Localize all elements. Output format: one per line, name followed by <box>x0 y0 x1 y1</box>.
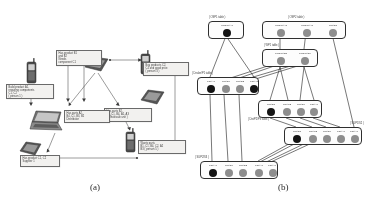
panel-a: Build product A1, requiring components C… <box>0 0 192 212</box>
callout-bottom-text: Wants parts B1, C1, B4, C2, A2 B3 ( pers… <box>141 142 184 151</box>
node-b7-n5[interactable] <box>269 169 277 177</box>
cluster-right-low: Part B1 Part C2 Part B4 Part A7 Part A1 <box>284 127 362 145</box>
device-pda-2 <box>139 88 166 107</box>
cluster-right-low-title: ( SUP1/S2 ) <box>350 122 364 125</box>
node-b7-n3[interactable] <box>239 169 247 177</box>
callout-bottom: Wants parts B1, C1, B4, C2, A2 B3 ( pers… <box>138 140 186 154</box>
panel-b: ( OSP1 table ) Product A1 ( OSP2 table )… <box>192 0 384 212</box>
node-b6-n4[interactable] <box>337 135 345 143</box>
node-b7-n4[interactable] <box>255 169 263 177</box>
caption-b: (b) <box>278 182 289 192</box>
cluster-center-low-title: ( DistP2/P3 table ) <box>248 118 269 121</box>
cluster-top-right-title: ( OSP2 table ) <box>288 16 304 19</box>
callout-right-top: Buy products C2, C4 and good price ( per… <box>143 62 189 76</box>
cluster-top-right: Product A2 Product A3 Part B1 <box>262 21 346 39</box>
device-phone-1 <box>26 58 37 84</box>
node-b1-n1[interactable] <box>223 29 231 37</box>
node-b6-n2[interactable] <box>309 135 317 143</box>
callout-laptop-text: Has parts A2, B4, C1, B3, B2 Distributor <box>67 112 108 121</box>
node-b6-n5[interactable] <box>351 135 359 143</box>
node-b7-n1[interactable] <box>209 169 218 178</box>
cluster-mid-right-title: ( WP1 table ) <box>264 44 279 47</box>
callout-top-text: Has product B1 and B2 Needs component C1 <box>59 52 100 64</box>
node-b3-n1[interactable] <box>277 57 285 65</box>
node-label-b5-n4: Part A7 <box>303 103 325 106</box>
node-b5-n4[interactable] <box>310 108 318 116</box>
node-b7-n2[interactable] <box>225 169 233 177</box>
callout-left: Build product A1, requiring components C… <box>6 84 54 99</box>
device-laptop-1 <box>28 108 68 134</box>
node-b5-n1[interactable] <box>267 108 276 117</box>
callout-laptop: Has parts A2, B4, C1, B3, B2 Distributor <box>64 110 110 123</box>
node-label-b4-n4: Part A2 <box>243 80 265 83</box>
caption-a: (a) <box>90 182 100 192</box>
node-b4-n1[interactable] <box>207 85 216 94</box>
node-label-b2-n2: Product A3 <box>293 24 321 27</box>
cluster-top-left-title: ( OSP1 table ) <box>209 16 225 19</box>
node-b2-n3[interactable] <box>329 29 337 37</box>
node-b5-n2[interactable] <box>283 108 291 116</box>
callout-top: Has product B1 and B2 Needs component C1 <box>56 50 102 66</box>
node-b4-n2[interactable] <box>222 85 230 93</box>
node-b5-n3[interactable] <box>297 108 305 116</box>
node-label-b6-n5: Part A1 <box>344 130 364 133</box>
callout-bottom-left: Has product C1, C2 Supplier 1 <box>20 155 60 167</box>
node-b4-n3[interactable] <box>236 85 244 93</box>
node-label-b7-n5: Part A7 <box>262 164 282 167</box>
callout-bottom-left-text: Has product C1, C2 Supplier 1 <box>23 157 58 163</box>
cluster-center-low: Part B1 Part C2 Part B4 Part A7 <box>258 100 322 118</box>
node-b6-n3[interactable] <box>323 135 331 143</box>
callout-mid-right: Has parts B2, B3, C1, B4, A1, A3 ( Whole… <box>104 108 152 122</box>
node-b3-n2[interactable] <box>301 57 309 65</box>
callout-left-text: Build product A1, requiring components C… <box>9 86 52 98</box>
node-b4-n4[interactable] <box>250 85 259 94</box>
node-label-b2-n1: Product A2 <box>267 24 295 27</box>
cluster-top-left: Product A1 <box>208 21 244 39</box>
node-b2-n2[interactable] <box>303 29 311 37</box>
node-b6-n1[interactable] <box>293 135 302 144</box>
cluster-bottom-left-title: ( SUP2/S3 ) <box>195 156 209 159</box>
node-label-b1-n1: Product A1 <box>211 24 243 27</box>
node-label-b3-n2: Product B4 <box>291 52 319 55</box>
cluster-mid-right: Product B2 Product B4 <box>262 49 318 67</box>
cluster-bottom-left: Part A1 Part B4 Part B2 Part A1 Part A7 <box>200 161 278 179</box>
callout-right-top-text: Buy products C2, C4 and good price ( per… <box>146 64 187 73</box>
cluster-mid-left-title: ( Dealer/P1 table ) <box>192 72 213 75</box>
cluster-mid-left: Part A1 Part B4 Part B2 Part A2 <box>197 77 259 95</box>
node-b2-n1[interactable] <box>277 29 285 37</box>
figure-root: Build product A1, requiring components C… <box>0 0 384 212</box>
device-phone-3 <box>125 128 136 153</box>
node-label-b2-n3: Part B1 <box>321 24 345 27</box>
callout-mid-right-text: Has parts B2, B3, C1, B4, A1, A3 ( Whole… <box>107 110 150 119</box>
